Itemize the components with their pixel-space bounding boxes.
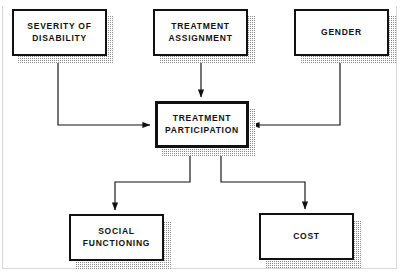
node-gender[interactable]: GENDER xyxy=(294,9,389,56)
node-label: GENDER xyxy=(319,27,364,38)
node-label: COST xyxy=(291,231,322,242)
diagram-canvas: SEVERITY OF DISABILITY TREATMENT ASSIGNM… xyxy=(0,0,400,276)
node-label: SEVERITY OF DISABILITY xyxy=(25,21,93,43)
node-label: TREATMENT ASSIGNMENT xyxy=(166,21,234,43)
edge-participation-to-cost xyxy=(221,148,305,209)
edge-participation-to-social xyxy=(115,148,190,210)
edge-severity-to-participation xyxy=(58,55,150,125)
node-treatment-participation[interactable]: TREATMENT PARTICIPATION xyxy=(155,101,249,148)
node-social-functioning[interactable]: SOCIAL FUNCTIONING xyxy=(69,214,164,261)
node-cost[interactable]: COST xyxy=(259,213,354,260)
edge-gender-to-participation xyxy=(252,55,340,125)
node-label: TREATMENT PARTICIPATION xyxy=(163,113,241,135)
node-severity-of-disability[interactable]: SEVERITY OF DISABILITY xyxy=(12,9,107,56)
node-treatment-assignment[interactable]: TREATMENT ASSIGNMENT xyxy=(153,9,248,56)
node-label: SOCIAL FUNCTIONING xyxy=(81,226,152,248)
